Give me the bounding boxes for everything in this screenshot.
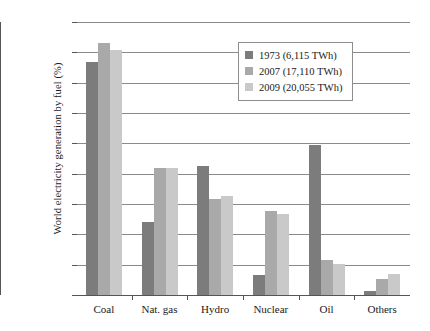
bar (265, 211, 277, 295)
x-axis-tick-mark (187, 295, 188, 300)
gridline (76, 143, 410, 144)
y-axis-tick-mark (72, 22, 77, 23)
bar (110, 50, 122, 295)
bar (98, 43, 110, 295)
bar (209, 199, 221, 295)
y-axis-tick-mark (72, 265, 77, 266)
x-axis-tick-mark (243, 295, 244, 300)
bar (221, 196, 233, 295)
legend-item: 2009 (20,055 TWh) (245, 79, 343, 95)
bar (309, 145, 321, 295)
x-axis-tick-mark (132, 295, 133, 300)
bar (154, 168, 166, 295)
legend-label: 1973 (6,115 TWh) (259, 50, 337, 61)
legend-item: 1973 (6,115 TWh) (245, 47, 343, 63)
bar-group (364, 22, 400, 295)
y-axis-tick-mark (72, 204, 77, 205)
bar-chart: World electricity generation by fuel (%)… (0, 0, 430, 331)
gridline (76, 204, 410, 205)
y-axis-tick-mark (72, 143, 77, 144)
y-axis-tick-mark (72, 83, 77, 84)
legend-label: 2009 (20,055 TWh) (259, 82, 343, 93)
bar-group (142, 22, 178, 295)
x-axis-tick-mark (299, 295, 300, 300)
bar (277, 214, 289, 295)
y-axis-tick-mark (72, 295, 77, 296)
gridline (76, 234, 410, 235)
legend-item: 2007 (17,110 TWh) (245, 63, 343, 79)
gridline (76, 265, 410, 266)
bar (142, 222, 154, 295)
y-axis-tick-mark (72, 113, 77, 114)
bar (86, 62, 98, 295)
bar (197, 166, 209, 295)
legend-label: 2007 (17,110 TWh) (259, 66, 342, 77)
gridline (76, 113, 410, 114)
x-axis-tick-mark (354, 295, 355, 300)
y-axis-tick-mark (72, 174, 77, 175)
legend-swatch-icon (245, 51, 253, 59)
x-axis-tick-label: Others (337, 303, 427, 315)
bar (388, 274, 400, 295)
y-axis-line (0, 22, 1, 295)
gridline (76, 22, 410, 23)
bar-group (86, 22, 122, 295)
y-axis-tick-mark (72, 234, 77, 235)
y-axis-title: World electricity generation by fuel (%) (52, 19, 63, 279)
bar (321, 260, 333, 295)
y-axis-tick-mark (72, 52, 77, 53)
bar (333, 264, 345, 295)
gridline (76, 174, 410, 175)
bar (364, 291, 376, 295)
bar (376, 279, 388, 295)
bar-group (197, 22, 233, 295)
legend: 1973 (6,115 TWh)2007 (17,110 TWh)2009 (2… (238, 42, 353, 101)
legend-swatch-icon (245, 83, 253, 91)
bar (253, 275, 265, 295)
legend-swatch-icon (245, 67, 253, 75)
bar (166, 168, 178, 295)
